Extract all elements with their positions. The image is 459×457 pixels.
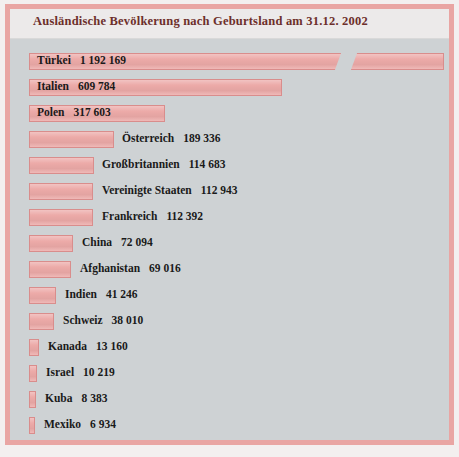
bar-label: China72 094 — [82, 236, 153, 248]
bar-row: Israel10 219 — [10, 362, 449, 388]
bar-row: Indien41 246 — [10, 284, 449, 310]
bar-category-label: Großbritannien — [102, 158, 180, 170]
bar-row: Mexiko6 934 — [10, 414, 449, 440]
title-band: Ausländische Bevölkerung nach Geburtslan… — [10, 9, 449, 39]
bar-category-label: Polen — [37, 106, 64, 118]
bar-row: Österreich189 336 — [10, 128, 449, 154]
bar-label: Afghanistan69 016 — [80, 262, 181, 274]
bar-category-label: Türkei — [37, 54, 71, 66]
bar — [29, 157, 94, 174]
bar-row: Frankreich112 392 — [10, 206, 449, 232]
bar-value-label: 72 094 — [121, 236, 153, 248]
bar-row: Italien609 784 — [10, 76, 449, 102]
bar-label: Kuba8 383 — [45, 392, 107, 404]
bar-category-label: Schweiz — [63, 314, 103, 326]
bar-row: Türkei1 192 169 — [10, 50, 449, 76]
bar-value-label: 609 784 — [78, 80, 115, 92]
bar-label: Frankreich112 392 — [102, 210, 203, 222]
bar-category-label: Mexiko — [44, 418, 81, 430]
bar-label: Österreich189 336 — [122, 132, 221, 144]
bar-value-label: 6 934 — [90, 418, 116, 430]
chart-frame: Ausländische Bevölkerung nach Geburtslan… — [5, 4, 454, 445]
bar-category-label: Afghanistan — [80, 262, 140, 274]
bar-label: Schweiz38 010 — [63, 314, 143, 326]
bar — [29, 365, 37, 382]
chart-title: Ausländische Bevölkerung nach Geburtslan… — [33, 14, 368, 29]
bar-row: Kuba8 383 — [10, 388, 449, 414]
bar — [29, 417, 35, 434]
bar — [29, 339, 39, 356]
bar — [29, 313, 54, 330]
bar-category-label: Kuba — [45, 392, 73, 404]
bar-value-label: 112 943 — [201, 184, 238, 196]
bar-row: Großbritannien114 683 — [10, 154, 449, 180]
bar-value-label: 114 683 — [189, 158, 226, 170]
bar — [29, 183, 93, 200]
bar-value-label: 317 603 — [73, 106, 110, 118]
bar-value-label: 112 392 — [166, 210, 203, 222]
bar — [29, 391, 36, 408]
bar-category-label: Indien — [65, 288, 97, 300]
bar-value-label: 41 246 — [106, 288, 138, 300]
bar-category-label: China — [82, 236, 112, 248]
bar-category-label: Vereinigte Staaten — [102, 184, 192, 196]
bar-label: Mexiko6 934 — [44, 418, 116, 430]
bar-label: Großbritannien114 683 — [102, 158, 226, 170]
bar — [29, 287, 56, 304]
bar-row: Vereinigte Staaten112 943 — [10, 180, 449, 206]
bar-row: Schweiz38 010 — [10, 310, 449, 336]
bar-category-label: Italien — [37, 80, 69, 92]
bar-value-label: 8 383 — [82, 392, 108, 404]
bar-label: Italien609 784 — [37, 80, 115, 92]
bar-value-label: 38 010 — [112, 314, 144, 326]
bar-row: China72 094 — [10, 232, 449, 258]
chart-figure: Ausländische Bevölkerung nach Geburtslan… — [0, 0, 459, 457]
bar — [29, 235, 73, 252]
bar-label: Israel10 219 — [46, 366, 115, 378]
bar-row: Afghanistan69 016 — [10, 258, 449, 284]
bar-value-label: 10 219 — [83, 366, 115, 378]
bar-value-label: 69 016 — [149, 262, 181, 274]
bar-value-label: 13 160 — [96, 340, 128, 352]
bar — [29, 209, 93, 226]
bar-row: Polen317 603 — [10, 102, 449, 128]
bar-category-label: Österreich — [122, 132, 174, 144]
bar-label: Indien41 246 — [65, 288, 138, 300]
bar-label: Türkei1 192 169 — [37, 54, 126, 66]
bar — [29, 261, 71, 278]
bar-label: Kanada13 160 — [48, 340, 128, 352]
bar-category-label: Frankreich — [102, 210, 157, 222]
bar — [29, 131, 114, 148]
bar-category-label: Kanada — [48, 340, 87, 352]
bar-value-label: 1 192 169 — [80, 54, 126, 66]
bar-label: Vereinigte Staaten112 943 — [102, 184, 238, 196]
bar-value-label: 189 336 — [183, 132, 220, 144]
bar-row: Kanada13 160 — [10, 336, 449, 362]
bar-category-label: Israel — [46, 366, 74, 378]
plot-area: Türkei1 192 169Italien609 784Polen317 60… — [10, 38, 449, 440]
bar-label: Polen317 603 — [37, 106, 111, 118]
